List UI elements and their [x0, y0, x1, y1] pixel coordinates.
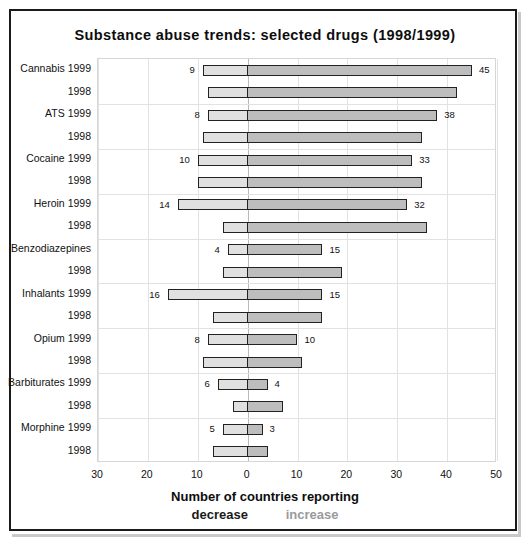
bar — [213, 312, 323, 323]
x-tick-label: 50 — [490, 468, 502, 480]
bar-value-decrease: 5 — [159, 423, 215, 434]
category-label: Opium 1999 — [0, 332, 91, 344]
bar-segment-increase — [247, 156, 412, 165]
chart-title: Substance abuse trends: selected drugs (… — [11, 27, 519, 43]
bar-value-decrease: 10 — [134, 154, 190, 165]
category-label: 1998 — [0, 264, 91, 276]
x-tick-label: 10 — [191, 468, 203, 480]
group-separator — [98, 418, 495, 419]
bar-segment-increase — [247, 66, 471, 75]
bar-segment-decrease — [219, 380, 249, 389]
bar-value-increase: 32 — [414, 199, 425, 210]
bar — [198, 155, 412, 166]
bar — [228, 244, 323, 255]
bar-segment-decrease — [224, 268, 249, 277]
bar — [218, 379, 268, 390]
bar-value-decrease: 8 — [144, 109, 200, 120]
category-label: Inhalants 1999 — [0, 287, 91, 299]
bar-segment-decrease — [209, 88, 249, 97]
gridline — [497, 59, 498, 461]
bar — [208, 87, 457, 98]
x-tick-label: 30 — [91, 468, 103, 480]
category-label: 1998 — [0, 174, 91, 186]
category-label: Barbiturates 1999 — [0, 376, 91, 388]
bar-value-increase: 38 — [444, 109, 455, 120]
bar — [223, 424, 263, 435]
chart-frame: Substance abuse trends: selected drugs (… — [9, 9, 517, 531]
bar-value-increase: 10 — [305, 334, 316, 345]
bar-segment-decrease — [224, 223, 249, 232]
x-tick-label: 20 — [341, 468, 353, 480]
bar-value-increase: 3 — [270, 423, 275, 434]
bar-value-decrease: 4 — [164, 244, 220, 255]
bar-segment-increase — [247, 290, 322, 299]
bar-segment-increase — [247, 335, 297, 344]
legend-item-decrease: decrease — [192, 507, 248, 522]
x-axis: 30201001020304050 — [97, 464, 496, 484]
bar-segment-decrease — [199, 178, 249, 187]
category-label-column: Cannabis 19991998ATS 19991998Cocaine 199… — [11, 58, 95, 462]
x-axis-title: Number of countries reporting — [11, 489, 519, 504]
bar-segment-decrease — [214, 447, 249, 456]
group-separator — [98, 194, 495, 195]
bar-segment-increase — [247, 358, 302, 367]
x-tick-label: 0 — [244, 468, 250, 480]
plot-area: 9458381033143241516158106453 — [97, 58, 496, 462]
bar-value-decrease: 16 — [104, 289, 160, 300]
bar-segment-increase — [247, 200, 407, 209]
category-label: ATS 1999 — [0, 107, 91, 119]
group-separator — [98, 373, 495, 374]
bar-segment-decrease — [209, 335, 249, 344]
bar-value-increase: 15 — [329, 244, 340, 255]
bar-value-decrease: 14 — [114, 199, 170, 210]
category-label: 1998 — [0, 444, 91, 456]
category-label: 1998 — [0, 309, 91, 321]
x-tick-label: 20 — [141, 468, 153, 480]
bar-value-increase: 33 — [419, 154, 430, 165]
bar-segment-increase — [247, 111, 437, 120]
frame-shadow-right — [518, 12, 521, 537]
bar — [208, 110, 437, 121]
bar — [223, 267, 343, 278]
bar-segment-increase — [247, 88, 456, 97]
bar-segment-increase — [247, 245, 322, 254]
bar-segment-increase — [247, 178, 422, 187]
category-label: Morphine 1999 — [0, 421, 91, 433]
bar — [178, 199, 407, 210]
bar-segment-increase — [247, 425, 262, 434]
category-label: 1998 — [0, 130, 91, 142]
bar-value-decrease: 9 — [139, 64, 195, 75]
bar-value-decrease: 6 — [154, 378, 210, 389]
group-separator — [98, 104, 495, 105]
bar-segment-decrease — [229, 245, 249, 254]
bar-segment-decrease — [209, 111, 249, 120]
chart-page: Substance abuse trends: selected drugs (… — [0, 0, 530, 551]
legend: decrease increase — [11, 507, 519, 522]
bar-segment-increase — [247, 268, 342, 277]
bar — [203, 65, 472, 76]
bar-segment-increase — [247, 313, 322, 322]
bar-segment-increase — [247, 402, 282, 411]
gridline — [98, 59, 99, 461]
bar — [208, 334, 298, 345]
category-label: Cocaine 1999 — [0, 152, 91, 164]
category-label: 1998 — [0, 354, 91, 366]
category-label: Cannabis 1999 — [0, 62, 91, 74]
legend-item-increase: increase — [286, 507, 339, 522]
bar-value-increase: 15 — [329, 289, 340, 300]
bar-segment-decrease — [199, 156, 249, 165]
bar-segment-decrease — [224, 425, 249, 434]
bar-segment-increase — [247, 223, 427, 232]
bar-segment-increase — [247, 133, 422, 142]
frame-shadow-bottom — [12, 534, 520, 537]
bar-segment-decrease — [169, 290, 249, 299]
group-separator — [98, 328, 495, 329]
bar — [203, 357, 303, 368]
x-tick-label: 30 — [390, 468, 402, 480]
group-separator — [98, 283, 495, 284]
category-label: 1998 — [0, 85, 91, 97]
bar-segment-decrease — [214, 313, 249, 322]
bar-value-increase: 4 — [275, 378, 280, 389]
category-label: Heroin 1999 — [0, 197, 91, 209]
bar-value-decrease: 8 — [144, 334, 200, 345]
